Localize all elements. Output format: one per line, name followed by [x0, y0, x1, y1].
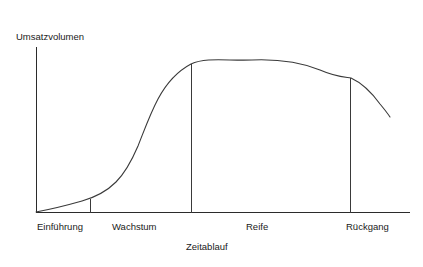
- stage-label-rueckgang: Rückgang: [346, 221, 389, 232]
- stage-label-wachstum: Wachstum: [112, 221, 157, 232]
- stage-label-einfuehrung: Einführung: [37, 221, 83, 232]
- x-axis-title: Zeitablauf: [186, 241, 228, 252]
- product-lifecycle-diagram: Umsatzvolumen Zeitablauf Einführung Wach…: [0, 0, 423, 267]
- lifecycle-curve-path: [36, 60, 390, 212]
- stage-label-reife: Reife: [246, 221, 268, 232]
- y-axis-title: Umsatzvolumen: [16, 31, 84, 42]
